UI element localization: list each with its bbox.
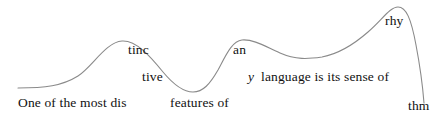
fragment-tinc: tinc [128, 43, 149, 57]
fragment-one-of-the-most-dis: One of the most dis [18, 96, 127, 110]
fragment-features-of: features of [170, 96, 229, 110]
fragment-y: y [248, 70, 254, 84]
fragment-an: an [233, 43, 246, 57]
rhythm-contour-path [18, 7, 424, 103]
fragment-thm: thm [408, 99, 429, 113]
rhythm-contour-figure: One of the most dis tinc tive features o… [0, 0, 442, 123]
fragment-language-is-its-sense-of: language is its sense of [261, 70, 389, 84]
fragment-rhy: rhy [385, 14, 403, 28]
fragment-tive: tive [142, 70, 163, 84]
